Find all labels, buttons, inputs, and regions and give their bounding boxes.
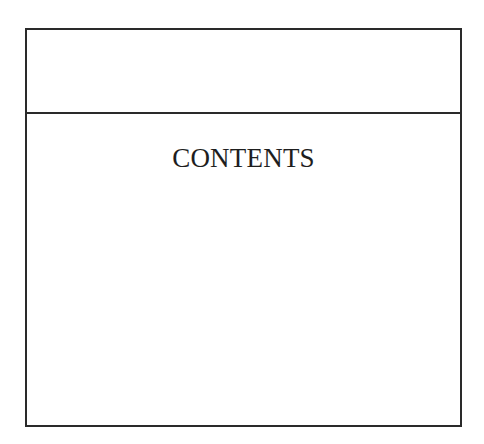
header-box [27, 30, 460, 114]
contents-title: CONTENTS [27, 143, 460, 173]
contents-area: CONTENTS [27, 114, 460, 425]
page-frame: CONTENTS [25, 28, 462, 427]
